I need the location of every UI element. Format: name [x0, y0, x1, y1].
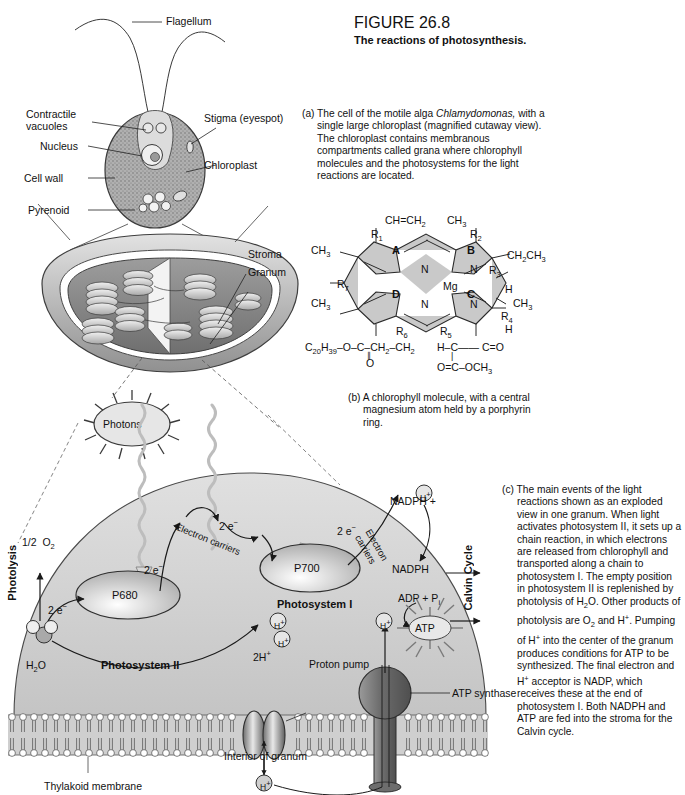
label-photosystem-1: Photosystem I: [277, 598, 352, 610]
label-half-o2: 1/2 O2: [22, 536, 55, 553]
label-2e-p680: 2 e−: [144, 561, 163, 576]
label-flagellum: Flagellum: [166, 15, 212, 27]
label-h2o: H2O: [26, 659, 46, 676]
label-contractile-vacuoles: Contractilevacuoles: [26, 108, 76, 132]
chl-ring-b: B: [467, 244, 475, 256]
proton-label-4: H+: [380, 617, 391, 632]
chl-label-r6: R6: [396, 325, 408, 342]
label-photosystem-2: Photosystem II: [101, 659, 179, 671]
chl-label-r7: R7: [337, 278, 349, 295]
proton-label-5: H+: [260, 778, 271, 793]
chl-label-methyl-right: CH3: [513, 297, 532, 314]
chl-n-lower-left: N: [421, 298, 429, 310]
label-chloroplast: Chloroplast: [204, 159, 257, 171]
chl-label-h-lower-right: H: [505, 323, 513, 335]
caption-c: (c) The main events of the light reactio…: [502, 484, 682, 738]
label-2e-left: 2 e−: [48, 601, 67, 616]
proton-label-2: H+: [274, 617, 285, 632]
caption-b-marker: (b): [348, 392, 360, 403]
figure-title: The reactions of photosynthesis.: [354, 34, 526, 46]
caption-a-italic: Chlamydomonas,: [436, 108, 515, 119]
chl-tail-right-top: H–C—— C=O: [437, 341, 504, 353]
label-nadph: NADPH: [392, 563, 429, 575]
label-stigma: Stigma (eyespot): [204, 112, 283, 124]
proton-label-3: H+: [278, 635, 289, 650]
label-p680: P680: [112, 589, 138, 601]
figure-number: FIGURE 26.8: [354, 14, 450, 32]
label-stroma: Stroma: [248, 248, 282, 260]
caption-a: (a) The cell of the motile alga Chlamydo…: [302, 108, 547, 182]
label-2e-ps1: 2 e−: [337, 522, 356, 537]
label-thylakoid-membrane: Thylakoid membrane: [44, 780, 142, 792]
chl-label-methyl-top-right: CH3: [447, 214, 466, 231]
label-pyrenoid: Pyrenoid: [28, 204, 69, 216]
chl-tail-carbonyl-o: O: [366, 357, 374, 369]
chl-label-h-upper-right: H: [505, 283, 513, 295]
chl-label-vinyl: CH=CH2: [385, 214, 426, 231]
caption-b: (b) A chlorophyll molecule, with a centr…: [348, 392, 548, 429]
chl-label-ethyl: CH2CH3: [507, 249, 546, 266]
chl-ring-a: A: [392, 244, 400, 256]
label-photolysis: Photolysis: [6, 545, 18, 601]
label-calvin-cycle: Calvin Cycle: [462, 545, 474, 610]
label-2h-plus: 2H+: [253, 648, 271, 663]
label-proton-pump: Proton pump: [309, 658, 369, 670]
label-atp-synthase: ATP synthase: [452, 687, 516, 699]
chl-n-lower-right: N: [470, 298, 478, 310]
label-adp-pi: ADP + Pi: [398, 592, 440, 609]
chl-label-r1: R1: [371, 228, 383, 245]
label-nucleus: Nucleus: [40, 140, 78, 152]
label-granum: Granum: [248, 266, 286, 278]
proton-label-1: H+: [420, 489, 431, 504]
chl-label-r2: R2: [470, 228, 482, 245]
label-interior-of-granum: Interior of granum: [224, 750, 307, 762]
chl-label-methyl-left: CH3: [311, 244, 330, 261]
chl-tail-left: C20H39–O–C–CH2–CH2: [305, 341, 415, 358]
label-atp: ATP: [415, 622, 435, 634]
chl-label-r5: R5: [440, 325, 452, 342]
chl-magnesium: Mg: [443, 280, 458, 292]
chl-n-upper-left: N: [421, 263, 429, 275]
chl-n-upper-right: N: [470, 263, 478, 275]
chl-ring-d: D: [392, 288, 400, 300]
label-p700: P700: [294, 562, 320, 574]
chl-label-methyl-lower-left: CH3: [311, 297, 330, 314]
label-2e-chain: 2 e−: [219, 517, 238, 532]
light-reactions-granum-diagram: [0, 425, 500, 795]
caption-c-marker: (c): [502, 484, 514, 495]
caption-a-marker: (a): [302, 108, 314, 119]
chl-tail-right-bottom: O=C–OCH3: [437, 361, 492, 378]
chl-label-r3: R3: [489, 264, 501, 281]
label-cell-wall: Cell wall: [24, 172, 63, 184]
